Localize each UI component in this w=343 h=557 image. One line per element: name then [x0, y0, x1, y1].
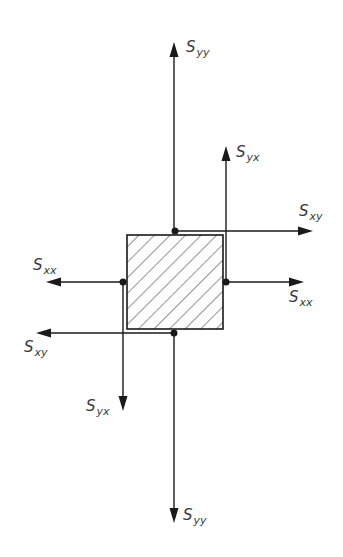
stress-element-square — [127, 235, 223, 329]
label-main: S — [33, 256, 43, 274]
label-subscript: yx — [97, 405, 110, 418]
label-sxy-left: Sxy — [24, 340, 48, 355]
label-subscript: yy — [197, 46, 210, 59]
label-subscript: yy — [194, 514, 207, 527]
left-point-dot — [120, 279, 127, 286]
bottom-point-dot — [171, 330, 178, 337]
label-subscript: xx — [44, 264, 57, 277]
sxy-right-arrowhead-icon — [298, 227, 313, 236]
sxx-right-arrowhead-icon — [289, 278, 304, 287]
syx-bottom-arrowhead-icon — [119, 396, 128, 411]
label-sxx-right: Sxx — [289, 290, 313, 305]
syx-right-arrowhead-icon — [222, 146, 231, 161]
right-point-dot — [223, 279, 230, 286]
label-main: S — [186, 38, 196, 56]
label-sxx-left: Sxx — [33, 258, 57, 273]
sxx-left-arrowhead-icon — [46, 278, 61, 287]
sxy-left-arrowhead-icon — [36, 329, 51, 338]
label-syy-bottom: Syy — [183, 508, 207, 523]
label-main: S — [86, 397, 96, 415]
syy-top-arrowhead-icon — [170, 42, 179, 57]
label-subscript: xy — [310, 210, 323, 223]
label-main: S — [236, 143, 246, 161]
label-syy-top: Syy — [186, 40, 210, 55]
label-sxy-right: Sxy — [299, 204, 323, 219]
label-main: S — [289, 288, 299, 306]
label-main: S — [299, 202, 309, 220]
label-subscript: xy — [35, 346, 48, 359]
top-point-dot — [172, 228, 179, 235]
stress-element-diagram — [0, 0, 343, 557]
label-main: S — [183, 506, 193, 524]
syy-bottom-arrowhead-icon — [170, 508, 179, 523]
label-syx-right: Syx — [236, 145, 260, 160]
label-subscript: yx — [247, 151, 260, 164]
label-syx-bottom: Syx — [86, 399, 110, 414]
label-main: S — [24, 338, 34, 356]
label-subscript: xx — [300, 296, 313, 309]
